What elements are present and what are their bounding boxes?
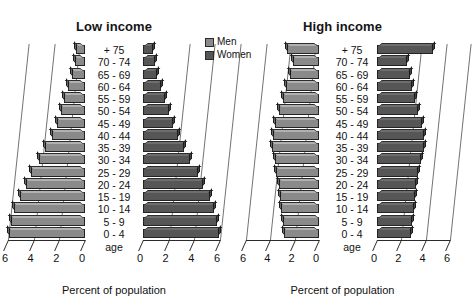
- bar-row: [246, 118, 319, 130]
- bar-men-65to69: [290, 70, 319, 79]
- bar-row: [8, 167, 85, 179]
- age-axis-low-income: + 7570 - 7465 - 6960 - 6455 - 5950 - 544…: [84, 44, 144, 262]
- bar-women-50to54: [143, 106, 169, 115]
- bar-row: [246, 228, 319, 240]
- bar-women-65to69: [143, 70, 157, 79]
- age-group-label: 0 - 4: [84, 228, 144, 240]
- axis-tick: [241, 240, 247, 251]
- bar-row: [377, 154, 450, 166]
- bar-group-men: [246, 44, 319, 240]
- bar-row: [8, 56, 85, 68]
- bar-row: [377, 228, 450, 240]
- age-axis-caption: age: [84, 241, 144, 253]
- axis-tick: [189, 240, 195, 251]
- bar-men-45to49: [57, 119, 85, 128]
- bar-women-30to34: [377, 155, 421, 164]
- bar-men-60to64: [68, 82, 85, 91]
- legend-label-women: Women: [217, 50, 251, 60]
- age-group-label: 65 - 69: [322, 69, 382, 81]
- bar-women-10to14: [143, 204, 214, 213]
- age-group-label: 45 - 49: [322, 118, 382, 130]
- age-group-label: 5 - 9: [84, 216, 144, 228]
- age-group-label: 20 - 24: [84, 179, 144, 191]
- bar-women-40to44: [143, 131, 178, 140]
- bar-men-35to39: [45, 143, 85, 152]
- age-group-label: 55 - 59: [322, 93, 382, 105]
- age-group-label: 70 - 74: [84, 56, 144, 68]
- bar-men-75: [287, 45, 319, 54]
- bar-row: [246, 203, 319, 215]
- plot-area-low-left: 6420: [8, 44, 85, 240]
- axis-tick-label: 2: [46, 252, 66, 264]
- age-group-label: 55 - 59: [84, 93, 144, 105]
- bar-row: [377, 105, 450, 117]
- bar-men-35to39: [272, 143, 319, 152]
- age-group-label: 15 - 19: [84, 191, 144, 203]
- axis-baseline: [143, 240, 220, 241]
- bar-row: [377, 167, 450, 179]
- axis-tick: [314, 240, 320, 251]
- age-group-label: 15 - 19: [322, 191, 382, 203]
- bar-men-10to14: [281, 204, 319, 213]
- age-group-label: 50 - 54: [322, 105, 382, 117]
- gridline: [450, 44, 472, 240]
- age-group-label: 25 - 29: [322, 167, 382, 179]
- bar-row: [246, 154, 319, 166]
- bar-row: [377, 56, 450, 68]
- bar-women-5to9: [143, 217, 217, 226]
- bar-women-40to44: [377, 131, 424, 140]
- axis-tick-label: 6: [233, 252, 253, 264]
- bar-row: [8, 216, 85, 228]
- axis-baseline: [8, 240, 85, 241]
- bar-women-35to39: [143, 143, 184, 152]
- bar-men-15to19: [20, 192, 85, 201]
- bar-row: [143, 154, 220, 166]
- bar-women-20to24: [143, 180, 203, 189]
- plot-area-high-left: 6420: [246, 44, 319, 240]
- legend-item-women: Women: [205, 49, 251, 61]
- bar-men-15to19: [280, 192, 319, 201]
- bar-women-45to49: [143, 119, 173, 128]
- bar-men-30to34: [275, 155, 319, 164]
- bar-women-55to59: [143, 94, 165, 103]
- axis-baseline: [246, 240, 319, 241]
- age-group-label: 40 - 44: [84, 130, 144, 142]
- legend-swatch-men: [205, 38, 214, 47]
- bar-women-10to14: [377, 204, 414, 213]
- bar-men-30to34: [39, 155, 85, 164]
- age-group-label: 35 - 39: [84, 142, 144, 154]
- age-group-label: 20 - 24: [322, 179, 382, 191]
- bar-women-55to59: [377, 94, 415, 103]
- axis-tick: [396, 240, 402, 251]
- axis-tick-label: 6: [437, 252, 457, 264]
- bar-men-55to59: [283, 94, 320, 103]
- bar-group-men: [8, 44, 85, 240]
- age-group-label: 30 - 34: [322, 154, 382, 166]
- bar-women-15to19: [377, 192, 415, 201]
- bar-men-40to44: [52, 131, 85, 140]
- axis-tick: [3, 240, 9, 251]
- bar-row: [8, 154, 85, 166]
- bar-row: [143, 69, 220, 81]
- chart-title-high-income: High income: [228, 19, 457, 34]
- bar-men-50to54: [279, 106, 319, 115]
- bar-row: [8, 228, 85, 240]
- bar-men-55to59: [64, 94, 85, 103]
- bar-row: [143, 105, 220, 117]
- age-group-label: 5 - 9: [322, 216, 382, 228]
- bar-women-0to4: [377, 229, 411, 238]
- legend: Men Women: [205, 36, 251, 61]
- axis-tick-label: 4: [181, 252, 201, 264]
- gridline: [220, 44, 242, 240]
- axis-tick: [265, 240, 271, 251]
- axis-tick-label: 4: [257, 252, 277, 264]
- age-group-label: 40 - 44: [322, 130, 382, 142]
- bar-group-women: [377, 44, 450, 240]
- bar-men-10to14: [14, 204, 85, 213]
- bar-women-60to64: [143, 82, 161, 91]
- bar-row: [143, 203, 220, 215]
- age-group-label: 10 - 14: [84, 203, 144, 215]
- bar-women-50to54: [377, 106, 418, 115]
- bar-men-70to74: [293, 57, 319, 66]
- age-group-label: 30 - 34: [84, 154, 144, 166]
